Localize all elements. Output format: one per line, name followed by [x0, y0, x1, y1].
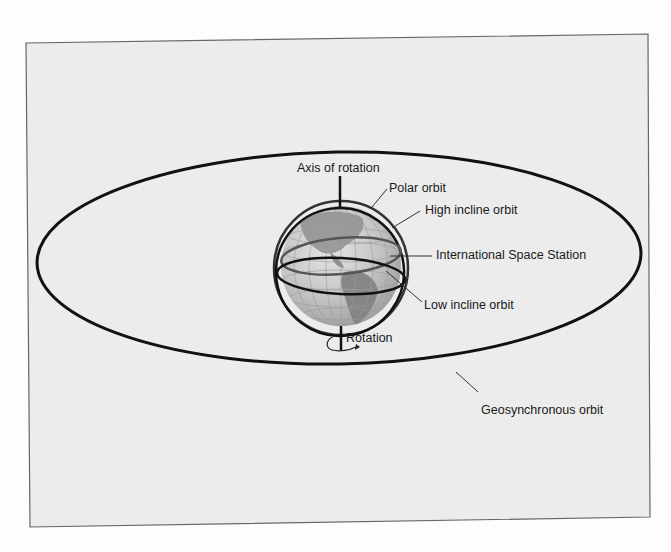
orbit-diagram: Axis of rotation Polar orbit High inclin…: [0, 0, 671, 552]
label-axis-of-rotation: Axis of rotation: [297, 161, 380, 175]
label-high-incline-orbit: High incline orbit: [425, 203, 518, 217]
label-geosynchronous-orbit: Geosynchronous orbit: [481, 403, 604, 417]
label-international-space-station: International Space Station: [436, 248, 586, 262]
label-rotation: Rotation: [346, 331, 393, 345]
label-low-incline-orbit: Low incline orbit: [424, 298, 514, 312]
label-polar-orbit: Polar orbit: [389, 181, 446, 195]
